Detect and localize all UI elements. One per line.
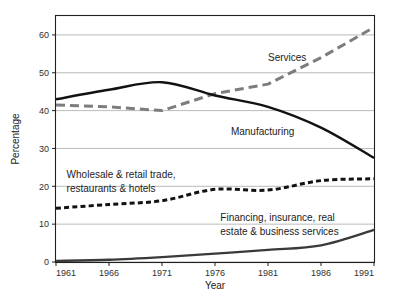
x-axis-title: Year: [205, 280, 226, 291]
annotation-label-4: Financing, insurance, real: [220, 212, 335, 223]
y-tick-label-20: 20: [39, 182, 49, 192]
chart-container: 0102030405060 19611966197119761981198619…: [0, 0, 395, 304]
y-tick-label-10: 10: [39, 219, 49, 229]
y-axis-title: Percentage: [10, 113, 21, 165]
y-tick-label-50: 50: [39, 68, 49, 78]
annotation-label-5: estate & business services: [220, 226, 338, 237]
x-tick-label-1976: 1976: [205, 268, 225, 278]
series-annotations: ServicesManufacturingWholesale & retail …: [67, 52, 339, 236]
x-tick-label-1981: 1981: [258, 268, 278, 278]
x-tick-label-1961: 1961: [56, 268, 76, 278]
annotation-label-0: Services: [268, 52, 306, 63]
x-tick-label-1966: 1966: [99, 268, 119, 278]
y-tick-label-30: 30: [39, 144, 49, 154]
x-axis-tick-labels: 1961196619711976198119861991: [56, 268, 374, 278]
x-tick-label-1971: 1971: [152, 268, 172, 278]
y-tick-label-0: 0: [44, 257, 49, 267]
y-tick-label-60: 60: [39, 30, 49, 40]
y-tick-label-40: 40: [39, 106, 49, 116]
x-tick-label-1991: 1991: [354, 268, 374, 278]
annotation-label-2: Wholesale & retail trade,: [67, 169, 176, 180]
series-line-0: [56, 27, 374, 110]
y-axis-tick-labels: 0102030405060: [39, 30, 49, 267]
x-tick-label-1986: 1986: [311, 268, 331, 278]
annotation-label-1: Manufacturing: [231, 126, 294, 137]
annotation-label-3: restaurants & hotels: [67, 183, 156, 194]
line-chart: 0102030405060 19611966197119761981198619…: [0, 0, 395, 304]
